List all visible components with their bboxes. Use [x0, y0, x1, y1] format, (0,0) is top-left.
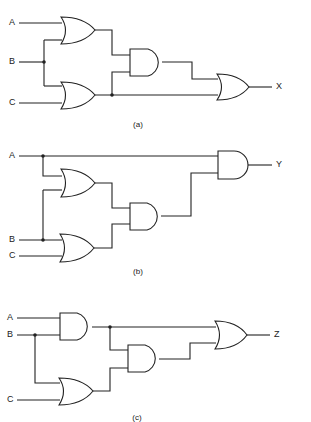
input-label-b: B [9, 235, 15, 244]
input-label-c: C [9, 251, 16, 260]
circuit-b [19, 151, 272, 262]
caption-c: (c) [132, 414, 141, 422]
output-label-y: Y [276, 160, 282, 169]
or-gate-icon [61, 169, 95, 197]
caption-a: (a) [133, 121, 143, 129]
junction-dot [110, 93, 114, 97]
input-label-a: A [9, 18, 15, 27]
junction-dot [108, 325, 112, 329]
logic-circuit-figure: A B C X (a) A B C Y (b) A B C Z (c) [0, 0, 311, 422]
input-label-a: A [7, 313, 13, 322]
junction-dot [42, 60, 46, 64]
and-gate-icon [128, 345, 155, 372]
junction-dot [41, 238, 45, 242]
or-gate-icon [59, 378, 93, 405]
output-label-x: X [276, 82, 282, 91]
or-gate-icon [215, 321, 247, 349]
circuit-a [19, 17, 272, 109]
output-label-z: Z [274, 330, 280, 339]
and-gate-icon [60, 313, 87, 340]
and-gate-icon [218, 151, 248, 179]
input-label-c: C [9, 98, 16, 107]
or-gate-icon [217, 74, 249, 100]
junction-dot [33, 333, 37, 337]
junction-dot [41, 154, 45, 158]
or-gate-icon [61, 17, 95, 44]
input-label-c: C [7, 395, 14, 404]
or-gate-icon [61, 82, 95, 109]
input-label-a: A [9, 151, 15, 160]
and-gate-icon [130, 49, 158, 76]
input-label-b: B [7, 330, 13, 339]
circuit-c [17, 313, 270, 405]
and-gate-icon [130, 203, 157, 230]
circuit-drawing [0, 0, 311, 422]
or-gate-icon [60, 234, 94, 262]
input-label-b: B [9, 57, 15, 66]
caption-b: (b) [133, 268, 143, 276]
